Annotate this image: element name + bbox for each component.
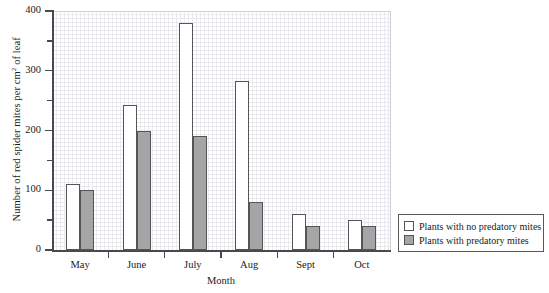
bar	[249, 202, 263, 250]
bar	[137, 131, 151, 251]
plot-border-right	[390, 11, 391, 251]
x-tick	[220, 251, 221, 258]
x-tick-label: May	[50, 259, 110, 270]
bar-chart: Number of red spider mites per cm2 of le…	[0, 0, 549, 293]
x-tick-label: Aug	[219, 259, 279, 270]
bar	[66, 184, 80, 250]
y-tick	[45, 10, 52, 11]
y-tick-label: 0	[5, 243, 41, 254]
legend-swatch-predatory-mites	[404, 235, 414, 245]
x-tick	[164, 251, 165, 258]
legend-item: Plants with predatory mites	[404, 233, 538, 247]
bar	[235, 81, 249, 250]
bar	[348, 220, 362, 250]
bar	[80, 190, 94, 250]
y-tick-label: 300	[5, 64, 41, 75]
y-tick-label: 100	[5, 183, 41, 194]
legend-label-no-predatory-mites: Plants with no predatory mites	[419, 221, 541, 232]
x-tick-label: Oct	[332, 259, 392, 270]
y-tick-minor	[47, 40, 52, 41]
plot-border-top	[52, 11, 391, 12]
bar	[292, 214, 306, 250]
x-tick-label: July	[163, 259, 223, 270]
bar	[193, 136, 207, 250]
x-tick-label: Sept	[276, 259, 336, 270]
plot-area	[52, 11, 390, 250]
y-tick	[45, 249, 52, 250]
y-axis-title-prefix: Number of red spider mites per cm	[11, 71, 22, 221]
legend-item: Plants with no predatory mites	[404, 219, 538, 233]
x-tick	[277, 251, 278, 258]
y-tick	[45, 130, 52, 131]
legend: Plants with no predatory mites Plants wi…	[398, 214, 544, 252]
y-tick	[45, 70, 52, 71]
y-axis-line	[52, 10, 54, 251]
legend-label-predatory-mites: Plants with predatory mites	[419, 235, 529, 246]
bar	[179, 23, 193, 250]
y-tick-minor	[47, 100, 52, 101]
y-tick-label: 200	[5, 124, 41, 135]
x-axis-title: Month	[52, 275, 390, 286]
y-tick	[45, 190, 52, 191]
y-tick-label: 400	[5, 4, 41, 15]
bar	[123, 105, 137, 250]
y-tick-minor	[47, 160, 52, 161]
bar	[362, 226, 376, 250]
bar	[306, 226, 320, 250]
legend-swatch-no-predatory-mites	[404, 221, 414, 231]
y-tick-minor	[47, 219, 52, 220]
x-tick	[333, 251, 334, 258]
x-tick-label: June	[107, 259, 167, 270]
x-tick	[108, 251, 109, 258]
